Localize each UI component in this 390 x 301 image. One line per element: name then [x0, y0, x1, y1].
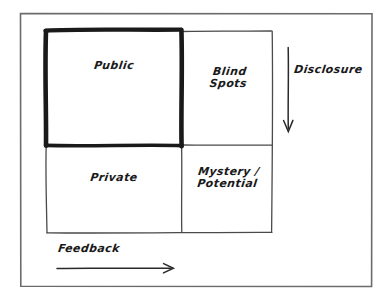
sketch-strokes	[0, 0, 390, 301]
quadrant-label-public: Public	[77, 60, 150, 72]
disclosure-arrow	[284, 48, 293, 132]
quadrant-label-mystery-potential: Mystery / Potential	[186, 166, 271, 190]
axis-label-feedback: Feedback	[57, 243, 148, 255]
johari-window-diagram: Public Blind Spots Private Mystery / Pot…	[0, 0, 390, 301]
quadrant-label-private: Private	[77, 172, 150, 184]
public-quadrant-bold-outline	[45, 30, 182, 147]
feedback-arrow	[57, 264, 173, 273]
axis-label-disclosure: Disclosure	[293, 64, 384, 76]
quadrant-label-blind-spots: Blind Spots	[192, 66, 267, 90]
